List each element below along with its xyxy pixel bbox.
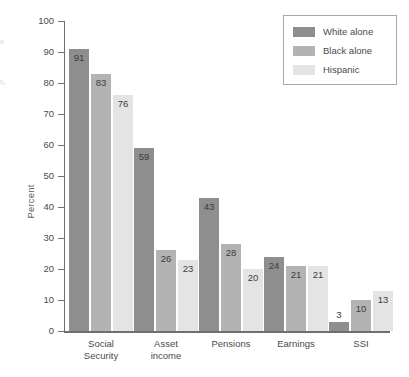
bar[interactable]: 24 (264, 257, 284, 331)
legend-color-swatch (293, 27, 315, 37)
y-axis-tick-label: 90 (22, 47, 54, 57)
legend-item-label: White alone (323, 25, 373, 38)
legend-color-swatch (293, 46, 315, 56)
x-axis-line (64, 331, 390, 333)
bar-value-label: 76 (118, 99, 129, 109)
bar[interactable]: 26 (156, 250, 176, 331)
bar-value-label: 59 (139, 152, 150, 162)
bar-group: 432820 (199, 21, 263, 331)
bar[interactable]: 59 (134, 148, 154, 331)
bar-value-label: 91 (74, 53, 85, 63)
bar-value-label: 21 (291, 270, 302, 280)
y-axis-tick-label: 40 (22, 202, 54, 212)
y-axis-tick-label: 100 (22, 16, 54, 26)
bar[interactable]: 3 (329, 322, 349, 331)
y-axis-tick-label: 0 (22, 326, 54, 336)
bar-value-label: 3 (336, 310, 341, 320)
y-axis-tick-label: 80 (22, 78, 54, 88)
legend-item-label: Hispanic (323, 63, 359, 76)
y-axis-tick-label: 70 (22, 109, 54, 119)
bar-value-label: 21 (313, 270, 324, 280)
x-axis-category-label: SSI (313, 338, 409, 350)
bar[interactable]: 76 (113, 95, 133, 331)
bar[interactable]: 28 (221, 244, 241, 331)
bar-value-label: 43 (204, 202, 215, 212)
bar[interactable]: 43 (199, 198, 219, 331)
bar-value-label: 83 (96, 78, 107, 88)
page-edge-artifact-top: e (0, 36, 4, 46)
bar-value-label: 13 (378, 295, 389, 305)
x-axis-category-label-line: income (118, 350, 214, 362)
bar[interactable]: 20 (243, 269, 263, 331)
bar[interactable]: 83 (91, 74, 111, 331)
y-axis-tick-label: 10 (22, 295, 54, 305)
page-edge-artifact-bottom: s, (0, 76, 6, 86)
bar[interactable]: 91 (69, 49, 89, 331)
bar-value-label: 24 (269, 261, 280, 271)
bar[interactable]: 23 (178, 260, 198, 331)
bar-value-label: 20 (248, 273, 259, 283)
legend: White aloneBlack aloneHispanic (283, 15, 397, 85)
y-axis-tick-label: 30 (22, 233, 54, 243)
bar-value-label: 28 (226, 248, 237, 258)
bar-value-label: 23 (183, 264, 194, 274)
y-axis-tick (58, 331, 65, 332)
bar-chart: e s, Percent 0102030405060708090100 9183… (0, 0, 409, 377)
legend-item-label: Black alone (323, 44, 372, 57)
bar[interactable]: 10 (351, 300, 371, 331)
y-axis-tick-label: 60 (22, 140, 54, 150)
bar[interactable]: 21 (308, 266, 328, 331)
bar-value-label: 10 (356, 304, 367, 314)
bar-group: 592623 (134, 21, 198, 331)
y-axis-tick-label: 20 (22, 264, 54, 274)
y-axis-tick-label: 50 (22, 171, 54, 181)
bar[interactable]: 21 (286, 266, 306, 331)
bar-group: 918376 (69, 21, 133, 331)
legend-color-swatch (293, 65, 315, 75)
bar-value-label: 26 (161, 254, 172, 264)
bar[interactable]: 13 (373, 291, 393, 331)
x-axis-category-label-line: SSI (313, 338, 409, 350)
